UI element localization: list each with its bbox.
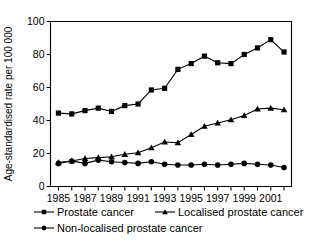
x-tick-label: 1995 bbox=[179, 192, 203, 204]
chart-figure: Age-standardised rate per 100 000 020406… bbox=[0, 0, 310, 243]
x-tick-label: 1997 bbox=[206, 192, 230, 204]
y-axis-tick-labels: 020406080100 bbox=[27, 15, 45, 192]
series-2 bbox=[55, 105, 287, 165]
marker-square bbox=[228, 61, 233, 66]
marker-circle bbox=[95, 157, 101, 163]
marker-circle bbox=[241, 161, 247, 167]
marker-square bbox=[242, 52, 247, 57]
legend-item[interactable]: Non-localised prostate cancer bbox=[34, 222, 203, 234]
marker-circle bbox=[162, 161, 168, 167]
x-axis-tick-labels: 198519871989199119931995199719992001 bbox=[47, 192, 283, 204]
marker-square bbox=[175, 67, 180, 72]
marker-triangle bbox=[241, 112, 248, 118]
marker-circle bbox=[56, 161, 62, 167]
marker-circle bbox=[82, 161, 88, 167]
x-tick-label: 1999 bbox=[233, 192, 257, 204]
y-tick-label: 80 bbox=[33, 48, 45, 60]
series-markers bbox=[55, 105, 287, 165]
y-tick-label: 20 bbox=[33, 147, 45, 159]
x-tick-label: 1989 bbox=[100, 192, 124, 204]
marker-circle bbox=[69, 158, 75, 164]
marker-circle bbox=[42, 226, 47, 231]
x-tick-label: 1985 bbox=[47, 192, 71, 204]
marker-square bbox=[255, 45, 260, 50]
legend-label: Localised prostate cancer bbox=[178, 206, 304, 218]
marker-square bbox=[202, 54, 207, 59]
marker-circle bbox=[202, 161, 208, 167]
marker-circle bbox=[188, 162, 194, 168]
marker-triangle bbox=[148, 144, 155, 150]
marker-square bbox=[135, 101, 140, 106]
marker-circle bbox=[149, 159, 155, 165]
x-axis-ticks bbox=[58, 187, 284, 191]
marker-circle bbox=[228, 161, 234, 167]
marker-circle bbox=[135, 161, 141, 167]
y-tick-label: 60 bbox=[33, 81, 45, 93]
marker-square bbox=[268, 37, 273, 42]
line-chart: Age-standardised rate per 100 000 020406… bbox=[0, 0, 310, 243]
marker-square bbox=[189, 61, 194, 66]
data-series-layer bbox=[55, 37, 287, 170]
marker-square bbox=[149, 87, 154, 92]
y-tick-label: 40 bbox=[33, 114, 45, 126]
y-tick-label: 100 bbox=[27, 15, 45, 27]
legend-label: Prostate cancer bbox=[57, 206, 134, 218]
x-tick-label: 1987 bbox=[73, 192, 97, 204]
marker-triangle bbox=[188, 131, 195, 137]
legend-label: Non-localised prostate cancer bbox=[57, 222, 203, 234]
y-tick-label: 0 bbox=[39, 180, 45, 192]
marker-circle bbox=[255, 161, 261, 167]
series-line bbox=[58, 40, 284, 114]
series-line bbox=[58, 108, 284, 162]
marker-square bbox=[82, 108, 87, 113]
series-markers bbox=[56, 37, 287, 116]
series-line bbox=[58, 160, 284, 167]
marker-square bbox=[281, 49, 286, 54]
marker-circle bbox=[268, 162, 274, 168]
marker-square bbox=[69, 111, 74, 116]
marker-circle bbox=[175, 162, 181, 168]
marker-square bbox=[215, 60, 220, 65]
marker-square bbox=[122, 103, 127, 108]
x-tick-label: 1993 bbox=[153, 192, 177, 204]
marker-square bbox=[162, 86, 167, 91]
marker-square bbox=[42, 210, 46, 214]
legend-item[interactable]: Prostate cancer bbox=[34, 206, 134, 218]
series-3 bbox=[56, 157, 287, 170]
marker-circle bbox=[109, 159, 115, 165]
marker-circle bbox=[281, 165, 287, 171]
legend-item[interactable]: Localised prostate cancer bbox=[155, 206, 304, 218]
series-1 bbox=[56, 37, 287, 116]
marker-square bbox=[109, 109, 114, 114]
marker-square bbox=[96, 106, 101, 111]
y-axis-title: Age-standardised rate per 100 000 bbox=[3, 26, 14, 181]
marker-circle bbox=[215, 162, 221, 168]
y-axis-ticks bbox=[47, 22, 51, 187]
x-tick-label: 2001 bbox=[259, 192, 283, 204]
chart-legend: Prostate cancerLocalised prostate cancer… bbox=[34, 206, 304, 234]
x-tick-label: 1991 bbox=[126, 192, 150, 204]
marker-circle bbox=[122, 160, 128, 166]
marker-square bbox=[56, 110, 61, 115]
